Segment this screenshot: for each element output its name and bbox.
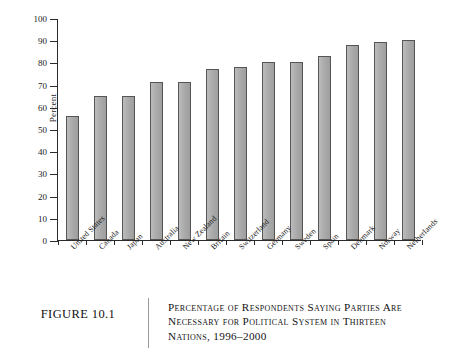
y-axis-tick: 80	[50, 63, 58, 64]
figure-container: Percent 0102030405060708090100 United St…	[0, 0, 469, 351]
bar	[234, 67, 247, 240]
bar	[150, 82, 163, 240]
chart-plot-area: Percent 0102030405060708090100	[57, 19, 421, 241]
y-axis-tick: 50	[50, 130, 58, 131]
bar-series	[58, 19, 421, 240]
bar	[374, 42, 387, 240]
y-axis-tick: 0	[50, 241, 58, 242]
bar	[66, 116, 79, 240]
x-axis-tick	[114, 240, 115, 245]
bar	[318, 56, 331, 240]
y-axis-tick-label: 0	[43, 236, 48, 247]
y-axis-tick: 90	[50, 41, 58, 42]
x-axis-tick	[282, 240, 283, 245]
figure-number-label: FIGURE 10.1	[22, 307, 134, 322]
caption-text: Percentage of Respondents Saying Parties…	[168, 300, 454, 343]
y-axis-tick: 30	[50, 174, 58, 175]
bar	[402, 40, 415, 240]
caption-divider-rule	[148, 298, 149, 348]
bar	[262, 62, 275, 240]
x-axis-tick	[394, 240, 395, 245]
bar	[290, 62, 303, 240]
caption-line: Percentage of Respondents Saying Parties…	[168, 300, 454, 314]
caption-line: Nations, 1996–2000	[168, 329, 454, 343]
y-axis-tick: 60	[50, 108, 58, 109]
y-axis-tick-label: 30	[38, 169, 47, 180]
bar	[178, 82, 191, 240]
y-axis-tick-label: 50	[38, 125, 47, 136]
x-axis-tick	[170, 240, 171, 245]
y-axis-tick: 10	[50, 219, 58, 220]
x-axis-tick	[58, 240, 59, 245]
figure-caption: FIGURE 10.1 Percentage of Respondents Sa…	[0, 297, 469, 351]
y-axis-tick-label: 60	[38, 103, 47, 114]
x-axis-tick	[366, 240, 367, 245]
x-axis-tick	[254, 240, 255, 245]
x-axis-tick	[226, 240, 227, 245]
x-axis-tick	[198, 240, 199, 245]
x-axis-tick	[422, 240, 423, 245]
y-axis-tick-label: 10	[38, 214, 47, 225]
y-axis-tick-label: 80	[38, 58, 47, 69]
y-axis-tick-label: 20	[38, 192, 47, 203]
y-axis-tick-label: 70	[38, 81, 47, 92]
y-axis-tick: 100	[50, 19, 58, 20]
x-axis-tick	[86, 240, 87, 245]
y-axis-tick-label: 40	[38, 147, 47, 158]
x-axis-tick	[142, 240, 143, 245]
x-axis-tick	[338, 240, 339, 245]
x-axis-tick	[310, 240, 311, 245]
y-axis-tick: 70	[50, 86, 58, 87]
y-axis-tick: 40	[50, 152, 58, 153]
caption-line: Necessary for Political System in Thirte…	[168, 314, 454, 328]
y-axis-tick-label: 100	[34, 14, 48, 25]
y-axis-tick: 20	[50, 197, 58, 198]
y-axis-tick-label: 90	[38, 36, 47, 47]
bar	[346, 45, 359, 240]
bar	[122, 96, 135, 240]
